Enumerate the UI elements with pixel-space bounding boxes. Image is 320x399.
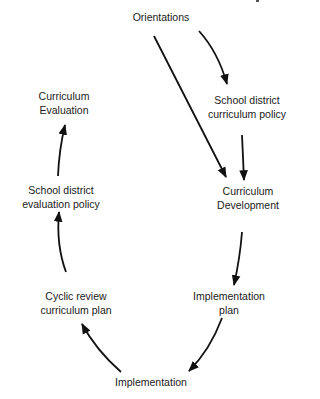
node-curriculum-evaluation: Curriculum Evaluation [39,89,90,117]
node-implementation-plan: Implementation plan [193,289,265,317]
node-cyclic-review-curriculum-plan: Cyclic review curriculum plan [40,289,111,317]
node-curriculum-development: Curriculum Development [217,184,279,212]
arrow-impl-plan-to-implementation [189,318,222,371]
arrow-cyclic-review-to-eval-policy [58,212,66,272]
node-implementation: Implementation [115,375,187,389]
arrow-development-to-impl-plan [234,232,242,285]
arrow-eval-policy-to-curriculum-eval [58,125,65,176]
node-orientations: Orientations [133,10,190,24]
arrow-implementation-to-cyclic-review [82,324,121,372]
arrow-policy-to-development [242,135,244,180]
arrow-orientations-to-policy [199,31,227,84]
node-school-district-curriculum-policy: School district curriculum policy [208,93,286,121]
node-school-district-evaluation-policy: School district evaluation policy [22,183,100,211]
